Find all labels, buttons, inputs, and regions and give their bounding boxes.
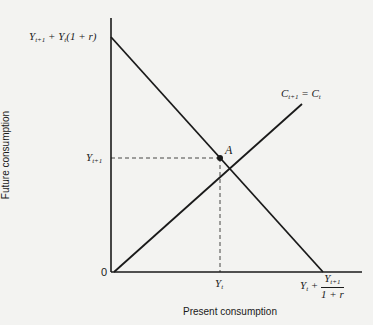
origin-label: 0 [101,267,107,278]
point-a-label: A [225,144,232,156]
equal-consumption-line [114,104,302,272]
y-axis-label: Future consumption [1,111,11,199]
x-intercept-label: Yt + Yt+11 + r [300,273,344,300]
point-a-marker [217,155,223,161]
y-intercept-label: Yt+1 + Yt(1 + r) [29,31,96,44]
x-axis-label: Present consumption [183,307,277,317]
equal-consumption-line-label: Ct+1 = Ct [281,88,321,101]
budget-line [111,37,323,272]
x-tick-label: Yt [215,278,223,291]
y-tick-label: Yt+1 [86,152,102,165]
